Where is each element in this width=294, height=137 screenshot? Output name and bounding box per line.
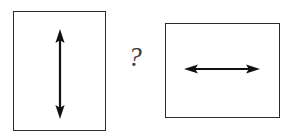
vertical-double-arrow-icon bbox=[46, 26, 74, 122]
figure-canvas: ? bbox=[0, 0, 294, 137]
horizontal-double-arrow-icon bbox=[181, 56, 263, 82]
question-mark: ? bbox=[125, 42, 145, 74]
